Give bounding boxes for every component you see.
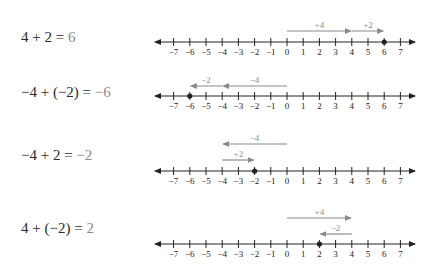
tick-label: 6 [382,47,387,57]
tick-label: 7 [398,176,403,186]
tick-label: 3 [333,47,338,57]
tick-label: 2 [317,47,322,57]
tick-label: 0 [285,47,290,57]
movement-label: +2 [363,20,373,30]
tick-label: 1 [301,47,306,57]
tick-label: −2 [250,249,260,259]
tick-label: −5 [201,47,211,57]
tick-label: 1 [301,176,306,186]
movement-label: +4 [315,20,325,30]
tick-label: −7 [169,249,179,259]
tick-label: −6 [185,47,195,57]
tick-label: 5 [366,101,371,111]
movement-label: +4 [315,207,325,217]
tick-label: 4 [350,176,355,186]
tick-label: 0 [285,101,290,111]
tick-label: −7 [169,176,179,186]
tick-label: 1 [301,249,306,259]
movement-label: −2 [331,223,341,233]
tick-label: 3 [333,101,338,111]
tick-label: 5 [366,176,371,186]
tick-label: 2 [317,101,322,111]
movement-label: −4 [250,133,260,143]
tick-label: −7 [169,47,179,57]
tick-label: −4 [217,101,227,111]
tick-label: 6 [382,176,387,186]
tick-label: −5 [201,176,211,186]
movement-label: −2 [201,75,211,85]
tick-label: 7 [398,101,403,111]
tick-label: −3 [234,47,244,57]
tick-label: 3 [333,176,338,186]
tick-label: 0 [285,176,290,186]
tick-label: −5 [201,249,211,259]
tick-label: −2 [250,47,260,57]
tick-label: −6 [185,101,195,111]
tick-label: −2 [250,176,260,186]
result-point [187,93,192,98]
number-line-diagrams: −7−6−5−4−3−2−101234567+4+2−7−6−5−4−3−2−1… [0,0,436,269]
tick-label: 4 [350,47,355,57]
tick-label: −4 [217,176,227,186]
tick-label: −5 [201,101,211,111]
tick-label: −1 [266,101,276,111]
tick-label: −1 [266,176,276,186]
tick-label: −3 [234,101,244,111]
movement-label: +2 [234,149,244,159]
tick-label: −1 [266,47,276,57]
tick-label: 0 [285,249,290,259]
tick-label: −3 [234,176,244,186]
tick-label: 2 [317,249,322,259]
tick-label: −7 [169,101,179,111]
tick-label: −2 [250,101,260,111]
tick-label: 7 [398,47,403,57]
tick-label: 4 [350,249,355,259]
tick-label: −6 [185,249,195,259]
movement-label: −4 [250,75,260,85]
result-point [252,168,257,173]
tick-label: 4 [350,101,355,111]
tick-label: 1 [301,101,306,111]
tick-label: 7 [398,249,403,259]
result-point [317,241,322,246]
tick-label: −4 [217,47,227,57]
tick-label: −3 [234,249,244,259]
result-point [382,39,387,44]
tick-label: 5 [366,47,371,57]
tick-label: −1 [266,249,276,259]
tick-label: −4 [217,249,227,259]
tick-label: 5 [366,249,371,259]
tick-label: 6 [382,249,387,259]
tick-label: 6 [382,101,387,111]
tick-label: 3 [333,249,338,259]
tick-label: 2 [317,176,322,186]
tick-label: −6 [185,176,195,186]
